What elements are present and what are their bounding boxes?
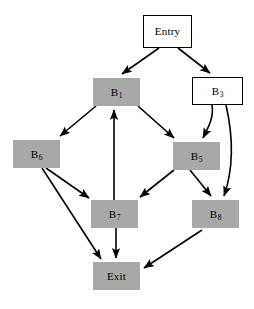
node-exit-label: Exit [107, 271, 126, 282]
edge-b3-b8 [224, 105, 231, 196]
node-b8[interactable]: B8 [192, 200, 239, 228]
edge-entry-b1 [122, 48, 159, 74]
node-b1[interactable]: B1 [93, 78, 140, 106]
edge-b1-b5 [138, 106, 174, 138]
node-b7-label: B7 [109, 209, 121, 220]
edge-b8-exit [144, 230, 202, 268]
control-flow-graph: Entry B1 B3 B6 B5 B7 B8 Exit [0, 0, 254, 309]
node-entry[interactable]: Entry [143, 15, 192, 48]
node-b1-label: B1 [111, 87, 123, 98]
node-b7[interactable]: B7 [91, 200, 138, 228]
node-b6-label: B6 [31, 149, 43, 160]
edge-b1-b6 [60, 106, 96, 136]
node-b5-label: B5 [191, 151, 203, 162]
node-exit[interactable]: Exit [93, 262, 140, 290]
node-b6[interactable]: B6 [13, 140, 60, 168]
edge-b5-b7 [140, 170, 174, 197]
edge-b5-b8 [190, 170, 211, 196]
node-b3[interactable]: B3 [192, 77, 243, 105]
node-b5[interactable]: B5 [173, 142, 220, 170]
node-entry-label: Entry [155, 26, 180, 37]
node-b8-label: B8 [210, 209, 222, 220]
node-b3-label: B3 [212, 86, 224, 97]
edge-b3-b5 [203, 105, 212, 138]
edge-entry-b3 [178, 48, 210, 73]
